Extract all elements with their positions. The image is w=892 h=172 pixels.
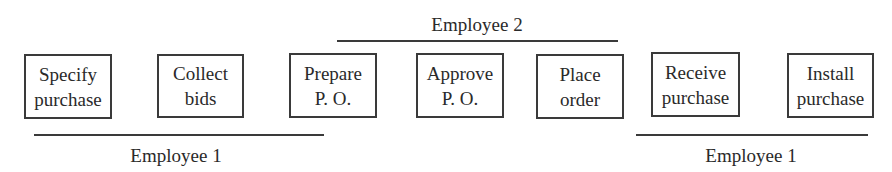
step-label-line2: order [560, 87, 600, 112]
step-label-line2: P. O. [315, 86, 351, 111]
step-box-prepare-po: Prepare P. O. [289, 53, 377, 118]
step-label-line1: Install [807, 61, 855, 86]
group-label-employee-1-right: Employee 1 [705, 145, 796, 167]
group-label-employee-2: Employee 2 [431, 14, 522, 36]
step-label-line2: purchase [34, 87, 102, 112]
step-label-line2: purchase [662, 85, 730, 110]
step-box-place-order: Place order [536, 54, 624, 119]
step-box-collect-bids: Collect bids [157, 54, 244, 118]
step-label-line2: bids [185, 86, 217, 111]
step-label-line1: Approve [427, 61, 493, 86]
step-label-line1: Prepare [304, 61, 362, 86]
step-label-line1: Collect [173, 61, 228, 86]
step-box-specify-purchase: Specify purchase [24, 54, 112, 119]
step-label-line1: Place [559, 62, 600, 87]
step-box-install-purchase: Install purchase [787, 53, 874, 118]
group-line-employee-1-left [34, 134, 324, 136]
step-label-line1: Specify [39, 62, 97, 87]
group-line-employee-2 [337, 40, 618, 42]
step-box-approve-po: Approve P. O. [416, 53, 504, 118]
step-label-line1: Receive [665, 60, 726, 85]
step-label-line2: purchase [797, 86, 865, 111]
step-label-line2: P. O. [442, 86, 478, 111]
group-label-employee-1-left: Employee 1 [130, 145, 221, 167]
purchasing-process-diagram: Employee 2 Specify purchase Collect bids… [0, 0, 892, 172]
group-line-employee-1-right [636, 134, 868, 136]
step-box-receive-purchase: Receive purchase [651, 52, 740, 117]
